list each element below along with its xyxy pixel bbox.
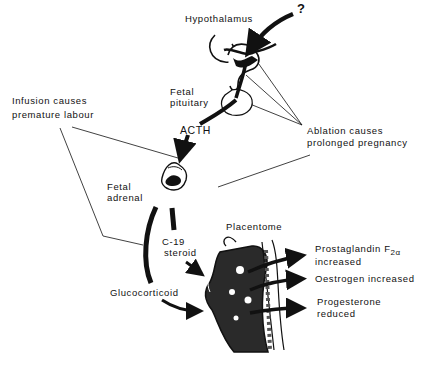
outcome-prostaglandin-line2: increased	[315, 256, 362, 268]
ablation-annotation-line1: Ablation causes	[307, 125, 383, 137]
c19-to-placentome-arrow	[186, 262, 200, 273]
c19-steroid-label-line2: steroid	[164, 247, 197, 259]
fetal-adrenal-drawing	[162, 163, 187, 190]
acth-arrow-lower	[181, 135, 188, 156]
placentome-drawing	[206, 237, 284, 352]
glucocorticoid-pathway	[146, 207, 156, 283]
diagram-canvas	[0, 0, 423, 367]
hypothalamus-label: Hypothalamus	[185, 13, 253, 25]
infusion-annotation-line1: Infusion causes	[12, 95, 87, 107]
c19-pathway	[172, 208, 174, 230]
glucocorticoid-label: Glucocorticoid	[110, 287, 179, 299]
hypothalamus-pituitary-drawing	[210, 35, 276, 115]
ablation-annotation-line2: prolonged pregnancy	[307, 137, 408, 149]
glucocorticoid-to-placentome-arrow	[162, 300, 198, 311]
infusion-annotation-line2: premature labour	[12, 109, 94, 121]
question-mark-label: ?	[297, 3, 306, 15]
placentome-label: Placentome	[226, 221, 282, 233]
outcome-oestrogen: Oestrogen increased	[315, 273, 415, 285]
outcome-progesterone-line1: Progesterone	[317, 296, 381, 308]
prostaglandin-text: Prostaglandin F	[315, 243, 391, 254]
prostaglandin-subscript: 2α	[391, 248, 401, 257]
fetal-adrenal-label-line2: adrenal	[107, 192, 143, 204]
outcome-progesterone-line2: reduced	[317, 308, 356, 320]
question-to-hypothalamus-arrow	[250, 14, 293, 50]
fetal-pituitary-label-line2: pituitary	[170, 97, 209, 109]
acth-label: ACTH	[180, 124, 211, 136]
